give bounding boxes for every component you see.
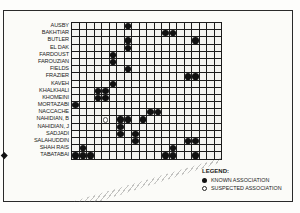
matrix-cell xyxy=(185,37,193,44)
matrix-cell xyxy=(207,116,215,123)
matrix-cell xyxy=(215,45,223,52)
matrix-cell xyxy=(162,52,170,59)
matrix-cell xyxy=(95,73,103,80)
matrix-cell xyxy=(95,102,103,109)
matrix-cell xyxy=(162,23,170,30)
matrix-cell xyxy=(155,59,163,66)
matrix-cell xyxy=(102,45,110,52)
matrix-cell xyxy=(80,52,88,59)
matrix-cell xyxy=(215,88,223,95)
matrix-cell xyxy=(72,30,80,37)
matrix-cell xyxy=(200,30,208,37)
matrix-cell xyxy=(215,66,223,73)
matrix-cell xyxy=(192,30,200,37)
matrix-cell xyxy=(140,45,148,52)
matrix-cell xyxy=(110,37,118,44)
matrix-cell xyxy=(117,66,125,73)
matrix-cell xyxy=(117,30,125,37)
matrix-cell xyxy=(117,102,125,109)
matrix-cell xyxy=(125,30,133,37)
matrix-cell xyxy=(177,138,185,145)
matrix-cell xyxy=(147,66,155,73)
matrix-cell xyxy=(80,23,88,30)
matrix-cell xyxy=(215,145,223,152)
matrix-cell xyxy=(80,81,88,88)
matrix-cell xyxy=(192,109,200,116)
matrix-cell xyxy=(132,52,140,59)
matrix-cell xyxy=(207,145,215,152)
matrix-cell xyxy=(87,30,95,37)
row-label: AUSBY xyxy=(0,22,69,29)
matrix-cell xyxy=(155,102,163,109)
row-label: NACCACHE xyxy=(0,108,69,115)
matrix-cell xyxy=(155,131,163,138)
matrix-cell xyxy=(140,59,148,66)
matrix-cell xyxy=(95,116,103,123)
matrix-cell xyxy=(95,138,103,145)
matrix-cell xyxy=(95,124,103,131)
matrix-cell xyxy=(162,95,170,102)
matrix-cell xyxy=(162,138,170,145)
matrix-cell xyxy=(132,116,140,123)
matrix-cell xyxy=(215,30,223,37)
matrix-cell xyxy=(132,109,140,116)
matrix-cell xyxy=(125,152,133,159)
matrix-cell xyxy=(207,95,215,102)
matrix-cell xyxy=(192,66,200,73)
matrix-cell xyxy=(207,138,215,145)
known-association-cell xyxy=(110,59,118,66)
matrix-cell xyxy=(125,109,133,116)
matrix-cell xyxy=(147,138,155,145)
matrix-cell xyxy=(87,102,95,109)
matrix-cell xyxy=(147,73,155,80)
matrix-cell xyxy=(155,145,163,152)
matrix-cell xyxy=(132,124,140,131)
matrix-cell xyxy=(117,95,125,102)
matrix-cell xyxy=(155,73,163,80)
row-label: SHAH RAIS xyxy=(0,144,69,151)
legend-known-label: KNOWN ASSOCIATION xyxy=(211,177,269,183)
matrix-cell xyxy=(140,73,148,80)
matrix-cell xyxy=(110,73,118,80)
matrix-cell xyxy=(102,109,110,116)
matrix-cell xyxy=(117,138,125,145)
matrix-cell xyxy=(170,138,178,145)
matrix-cell xyxy=(192,131,200,138)
matrix-cell xyxy=(177,30,185,37)
matrix-cell xyxy=(215,95,223,102)
matrix-cell xyxy=(155,95,163,102)
matrix-cell xyxy=(125,59,133,66)
matrix-cell xyxy=(185,124,193,131)
matrix-cell xyxy=(200,109,208,116)
matrix-cell xyxy=(140,30,148,37)
matrix-cell xyxy=(125,88,133,95)
matrix-cell xyxy=(87,145,95,152)
matrix-cell xyxy=(170,52,178,59)
matrix-cell xyxy=(177,88,185,95)
row-label: KAVEH xyxy=(0,80,69,87)
known-association-cell xyxy=(192,37,200,44)
matrix-cell xyxy=(72,95,80,102)
matrix-cell xyxy=(192,59,200,66)
matrix-cell xyxy=(185,30,193,37)
matrix-cell xyxy=(140,152,148,159)
matrix-cell xyxy=(110,116,118,123)
matrix-cell xyxy=(177,81,185,88)
matrix-cell xyxy=(215,116,223,123)
matrix-cell xyxy=(102,52,110,59)
matrix-cell xyxy=(117,88,125,95)
matrix-cell xyxy=(140,81,148,88)
known-association-cell xyxy=(117,131,125,138)
matrix-cell xyxy=(185,95,193,102)
matrix-cell xyxy=(125,52,133,59)
row-label: KHOMEINI xyxy=(0,94,69,101)
matrix-cell xyxy=(125,73,133,80)
matrix-cell xyxy=(110,66,118,73)
matrix-cell xyxy=(192,102,200,109)
matrix-cell xyxy=(87,116,95,123)
matrix-cell xyxy=(155,81,163,88)
matrix-cell xyxy=(162,116,170,123)
matrix-cell xyxy=(132,23,140,30)
matrix-cell xyxy=(185,52,193,59)
matrix-cell xyxy=(102,37,110,44)
